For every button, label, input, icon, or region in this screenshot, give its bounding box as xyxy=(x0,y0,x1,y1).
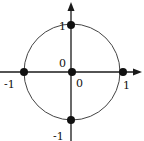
point-left xyxy=(20,68,28,76)
label-left: -1 xyxy=(4,78,15,91)
x-axis-arrow-icon xyxy=(133,69,142,76)
point-top xyxy=(67,21,75,29)
point-bottom xyxy=(67,116,75,124)
point-origin xyxy=(68,68,76,76)
label-origin-upper: 0 xyxy=(59,57,66,70)
y-axis-arrow-icon xyxy=(68,2,75,11)
label-bottom: -1 xyxy=(53,130,64,141)
point-right xyxy=(119,68,127,76)
label-right: 1 xyxy=(123,79,130,92)
label-top: 1 xyxy=(59,20,66,33)
label-origin-lower: 0 xyxy=(76,77,83,90)
unit-circle-diagram: 1 -1 -1 1 0 0 xyxy=(0,0,144,141)
